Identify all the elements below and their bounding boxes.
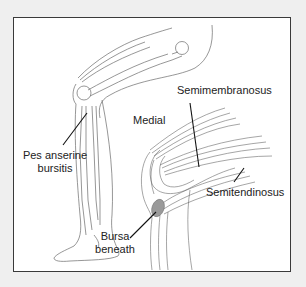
label-bursa-line1: Bursa <box>94 230 136 243</box>
label-pes-anserine-bursitis: Pes anserine bursitis <box>20 149 90 175</box>
label-semimembranosus: Semimembranosus <box>177 84 272 97</box>
label-medial: Medial <box>133 114 165 127</box>
label-semitendinosus: Semitendinosus <box>206 186 284 199</box>
leg-figure <box>54 25 212 261</box>
label-bursa-beneath: Bursa beneath <box>94 230 136 256</box>
label-pes-anserine-line1: Pes anserine <box>20 149 90 162</box>
label-pes-anserine-line2: bursitis <box>20 162 90 175</box>
label-bursa-line2: beneath <box>94 243 136 256</box>
knee-anatomy-illustration <box>0 0 306 287</box>
